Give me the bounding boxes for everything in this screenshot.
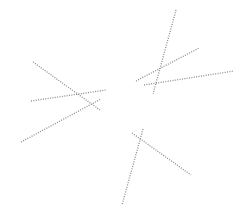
segment-e [136, 48, 199, 81]
segment-b [31, 90, 106, 101]
segment-a [33, 62, 100, 110]
segment-h [122, 129, 143, 205]
segment-d [153, 10, 176, 94]
line-segment-diagram [0, 0, 251, 222]
segment-g [132, 133, 191, 175]
cluster-top-right [136, 10, 234, 94]
segment-c [21, 99, 101, 142]
cluster-bottom [122, 129, 191, 205]
cluster-left [21, 62, 106, 142]
